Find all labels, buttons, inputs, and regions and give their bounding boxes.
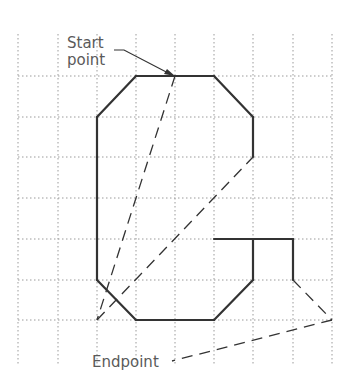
- start-leader-line: [114, 50, 172, 75]
- outline-segment: [214, 76, 253, 117]
- start-point-callout: Start point: [67, 34, 175, 76]
- start-label-line1: Start: [67, 34, 104, 52]
- outline-segment: [214, 280, 253, 320]
- start-label-line2: point: [67, 51, 105, 69]
- endpoint-callout: Endpoint: [92, 353, 159, 371]
- grid: [18, 34, 332, 366]
- outline-segment: [97, 76, 136, 117]
- drawing-canvas: Start point Endpoint: [0, 0, 351, 387]
- dashed-line: [293, 280, 332, 320]
- dashed-line: [172, 320, 332, 361]
- endpoint-label: Endpoint: [92, 353, 159, 371]
